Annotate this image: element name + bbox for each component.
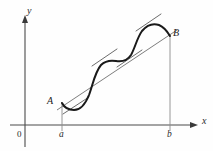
y-axis-label: y [27, 6, 31, 16]
x-axis-label: x [202, 116, 206, 126]
function-curve [62, 24, 170, 110]
tick-label-b: b [167, 130, 172, 140]
y-axis-arrowhead [22, 15, 28, 23]
point-label-b: B [173, 28, 179, 38]
tick-label-a: a [59, 130, 64, 140]
secant-line-ab [57, 30, 177, 110]
x-axis-arrowhead [190, 122, 198, 128]
figure-canvas [0, 0, 213, 151]
tangent-segment-1 [63, 97, 89, 114]
point-label-a: A [47, 96, 53, 106]
origin-label: 0 [17, 130, 22, 139]
tangent-segment-3 [117, 50, 142, 67]
mvt-figure: y x 0 a b A B [0, 0, 213, 151]
tangent-segment-4 [136, 14, 161, 31]
